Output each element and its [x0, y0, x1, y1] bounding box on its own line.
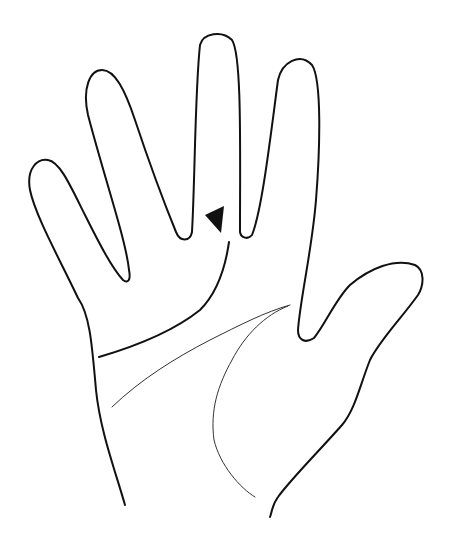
- life-line: [213, 306, 288, 497]
- palm-diagram: [0, 0, 450, 554]
- arrow-marker-icon: [205, 206, 224, 233]
- hand-outline: [29, 34, 422, 517]
